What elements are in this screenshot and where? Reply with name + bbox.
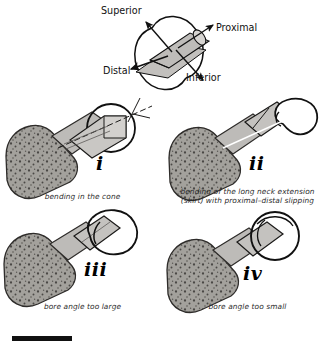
anatomical-orientation-key: Superior Proximal Distal Inferior	[0, 0, 330, 96]
superior-arrow	[146, 22, 172, 52]
panel-i-drawing	[0, 96, 165, 208]
panel-numeral-iii: iii	[84, 258, 107, 280]
axis-label-inferior: Inferior	[186, 72, 221, 83]
caption-line: (skirt) with proximal–distal slipping	[165, 196, 330, 206]
femoral-head-slipped	[275, 99, 317, 134]
panel-iii: iii bore angle too large	[0, 208, 165, 326]
caption-line: bore angle too large	[0, 302, 165, 312]
panel-numeral-ii: ii	[249, 152, 264, 174]
axis-label-distal: Distal	[103, 65, 130, 76]
bore-socket	[104, 116, 126, 138]
panel-ii: ii bending of the long neck extension (s…	[165, 96, 330, 208]
panel-iv: iv bore angle too small	[165, 208, 330, 326]
panel-numeral-i: i	[96, 152, 104, 174]
scale-bar	[12, 336, 72, 341]
caption-line: bending in the cone	[0, 192, 165, 202]
panel-i: i bending in the cone	[0, 96, 165, 208]
panel-iii-caption: bore angle too large	[0, 302, 165, 312]
panel-ii-caption: bending of the long neck extension (skir…	[165, 187, 330, 206]
panel-i-caption: bending in the cone	[0, 192, 165, 202]
caption-line: bending of the long neck extension	[165, 187, 330, 197]
bending-angle-tick-2	[133, 114, 150, 118]
axis-key-drawing	[0, 0, 330, 96]
caption-line: bore angle too small	[165, 302, 330, 312]
bending-angle-tick-1	[128, 98, 140, 122]
panel-iv-caption: bore angle too small	[165, 302, 330, 312]
panel-numeral-iv: iv	[243, 262, 262, 284]
axis-label-proximal: Proximal	[216, 22, 257, 33]
figure-root: Superior Proximal Distal Inferior	[0, 0, 330, 348]
axis-label-superior: Superior	[101, 5, 142, 16]
